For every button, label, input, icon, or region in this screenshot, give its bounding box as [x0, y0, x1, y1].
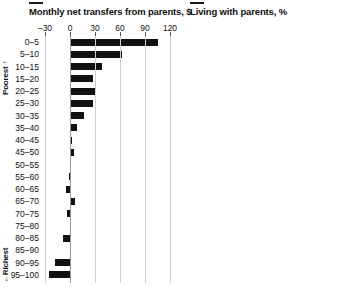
category-label: 50–55 — [0, 160, 39, 170]
bar-row — [45, 111, 170, 123]
category-label: 45–50 — [0, 147, 39, 157]
title-rule — [29, 2, 43, 4]
panel-living-with-parents: Living with parents, % 0–55–1010–1515–20… — [178, 0, 356, 289]
bar-row — [45, 209, 170, 221]
bar — [70, 63, 102, 70]
category-label: 90–95 — [0, 258, 39, 268]
bar-row — [45, 258, 170, 270]
bar-row — [45, 245, 170, 257]
panel-monthly-net-transfers: Monthly net transfers from parents, $ Po… — [0, 0, 178, 289]
category-label: 80–85 — [0, 233, 39, 243]
bar — [63, 235, 71, 242]
category-label: 15–20 — [0, 74, 39, 84]
category-labels-left: 0–55–1010–1515–2020–2525–3030–3535–4040–… — [3, 36, 43, 283]
category-label: 5–10 — [0, 49, 39, 59]
bar-row — [45, 98, 170, 110]
gridline-120 — [170, 36, 171, 283]
bar-row — [45, 270, 170, 282]
bar-row — [45, 74, 170, 86]
bar-row — [45, 86, 170, 98]
bar-row — [45, 62, 170, 74]
category-label: 25–30 — [0, 98, 39, 108]
category-label: 40–45 — [0, 135, 39, 145]
category-label: 60–65 — [0, 184, 39, 194]
panel-title-right: Living with parents, % — [190, 6, 287, 17]
gridline-60 — [120, 36, 121, 283]
category-label: 10–15 — [0, 62, 39, 72]
gridline-0 — [70, 36, 71, 283]
category-label: 20–25 — [0, 86, 39, 96]
gridline--30 — [45, 36, 46, 283]
tick-mark-30 — [95, 32, 96, 36]
title-rule — [190, 2, 204, 4]
bar-row — [45, 135, 170, 147]
bar — [70, 88, 95, 95]
category-label: 85–90 — [0, 245, 39, 255]
panel-title-left: Monthly net transfers from parents, $ — [29, 6, 191, 17]
chart-page: Monthly net transfers from parents, $ Po… — [0, 0, 356, 289]
category-label: 75–80 — [0, 221, 39, 231]
x-axis-left: –300306090120 — [45, 23, 170, 35]
bar-row — [45, 184, 170, 196]
category-label: 65–70 — [0, 196, 39, 206]
plot-area-left: –300306090120 — [45, 36, 170, 283]
bar-row — [45, 147, 170, 159]
category-label: 55–60 — [0, 172, 39, 182]
bar-row — [45, 221, 170, 233]
tick-mark-0 — [70, 32, 71, 36]
category-label: 95–100 — [0, 270, 39, 280]
category-label: 35–40 — [0, 123, 39, 133]
bar-row — [45, 160, 170, 172]
bar — [70, 75, 93, 82]
tick-mark--30 — [45, 32, 46, 36]
bar-row — [45, 49, 170, 61]
tick-mark-60 — [120, 32, 121, 36]
bar — [70, 112, 84, 119]
bar-row — [45, 37, 170, 49]
tick-mark-90 — [145, 32, 146, 36]
category-label: 30–35 — [0, 111, 39, 121]
bar — [49, 271, 70, 278]
bars-left — [45, 36, 170, 283]
bar-row — [45, 172, 170, 184]
bar-row — [45, 196, 170, 208]
gridline-30 — [95, 36, 96, 283]
category-label: 70–75 — [0, 209, 39, 219]
category-label: 0–5 — [0, 37, 39, 47]
gridline-90 — [145, 36, 146, 283]
bar — [70, 100, 93, 107]
tick-mark-120 — [170, 32, 171, 36]
bar-row — [45, 123, 170, 135]
bar-row — [45, 233, 170, 245]
bar — [55, 259, 70, 266]
